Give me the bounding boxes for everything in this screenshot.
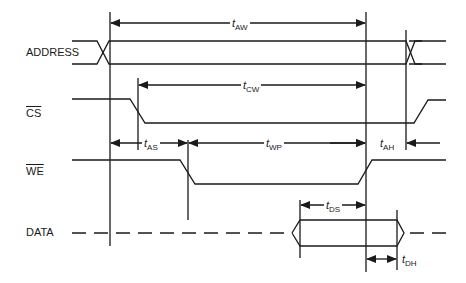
signal-label-data: DATA xyxy=(26,226,54,238)
we-waveform xyxy=(72,160,446,184)
address-waveform xyxy=(72,41,446,64)
timing-label-tCW: tCW xyxy=(241,79,261,96)
signal-label-address: ADDRESS xyxy=(26,46,79,58)
timing-label-tAW: tAW xyxy=(230,17,250,34)
signal-label-we: WE xyxy=(26,165,44,177)
timing-label-tAH: tAH xyxy=(378,137,396,154)
signal-label-cs: CS xyxy=(26,107,41,119)
timing-label-tAS: tAS xyxy=(142,137,160,154)
cs-waveform xyxy=(72,99,446,123)
timing-label-tWP: tWP xyxy=(264,137,284,154)
data-waveform xyxy=(72,220,446,246)
timing-label-tDH: tDH xyxy=(400,253,419,270)
timing-label-tDS: tDS xyxy=(324,199,342,216)
